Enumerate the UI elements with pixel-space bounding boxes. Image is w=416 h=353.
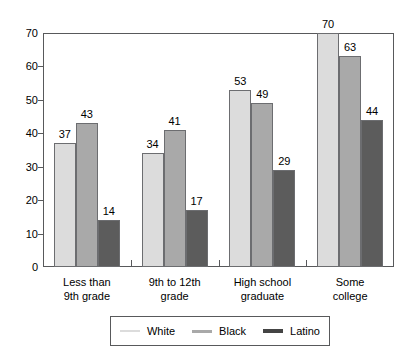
x-group-separator-tick: [306, 260, 307, 267]
bar-value-label: 41: [158, 116, 192, 127]
x-category-label-3: Somecollege: [290, 275, 410, 303]
bar-white-group-2: [229, 90, 251, 267]
legend-label: Black: [219, 326, 246, 337]
legend-entry-black[interactable]: Black: [192, 326, 246, 337]
bar-value-label: 53: [223, 76, 257, 87]
bar-latino-group-0: [98, 220, 120, 267]
legend-line-latino-icon: [263, 329, 283, 333]
bar-value-label: 17: [180, 196, 214, 207]
bar-value-label: 14: [92, 206, 126, 217]
bar-value-label: 49: [245, 89, 279, 100]
legend-entry-white[interactable]: White: [120, 326, 175, 337]
bar-value-label: 44: [355, 106, 389, 117]
bar-value-label: 43: [70, 109, 104, 120]
legend-line-black-icon: [192, 330, 212, 333]
x-group-separator-tick: [219, 260, 220, 267]
bar-chart: 010203040506070 374314344117534929706344…: [0, 0, 416, 353]
x-group-separator-tick: [131, 260, 132, 267]
bar-white-group-1: [142, 153, 164, 267]
legend-entry-latino[interactable]: Latino: [263, 326, 320, 337]
bar-white-group-3: [317, 33, 339, 267]
legend-line-white-icon: [120, 330, 140, 332]
bar-black-group-3: [339, 56, 361, 267]
x-category-label-line: Some: [290, 275, 410, 289]
x-category-label-line: college: [290, 289, 410, 303]
legend-label: White: [147, 326, 175, 337]
bar-white-group-0: [54, 143, 76, 267]
bar-latino-group-1: [186, 210, 208, 267]
bar-value-label: 29: [267, 156, 301, 167]
bar-latino-group-2: [273, 170, 295, 267]
bar-value-label: 70: [311, 19, 345, 30]
bar-black-group-0: [76, 123, 98, 267]
legend-label: Latino: [290, 326, 320, 337]
bar-value-label: 63: [333, 42, 367, 53]
bar-latino-group-3: [361, 120, 383, 267]
legend: WhiteBlackLatino: [110, 316, 330, 346]
bar-black-group-2: [251, 103, 273, 267]
